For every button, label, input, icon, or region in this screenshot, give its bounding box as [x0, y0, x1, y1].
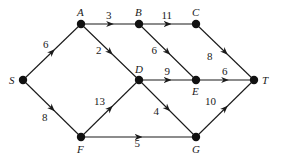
edge-weight-E-T: 6: [222, 65, 228, 77]
edge-F-D: [81, 80, 139, 137]
edge-weight-G-T: 10: [205, 95, 217, 107]
edge-weight-F-G: 5: [135, 137, 141, 149]
node-A: [77, 20, 85, 28]
edge-weight-S-F: 8: [42, 111, 48, 123]
edge-S-A: [23, 24, 81, 80]
edge-weight-A-B: 3: [106, 9, 112, 21]
edge-weight-D-E: 9: [165, 65, 171, 77]
edge-G-T: [196, 80, 254, 137]
node-B: [135, 20, 143, 28]
node-T: [250, 76, 258, 84]
edge-A-D: [81, 24, 139, 80]
edge-weight-S-A: 6: [43, 38, 49, 50]
node-F: [77, 133, 85, 141]
node-label-C: C: [192, 6, 200, 18]
edge-weight-A-D: 2: [96, 44, 102, 56]
node-label-A: A: [76, 6, 84, 18]
node-S: [19, 76, 27, 84]
graph-canvas: 6832116894613510SABCDETFG: [0, 0, 283, 161]
edge-weight-F-D: 13: [94, 95, 106, 107]
node-label-S: S: [9, 74, 15, 86]
edge-weight-B-C: 11: [162, 9, 173, 21]
node-label-E: E: [191, 85, 199, 97]
edge-D-G: [139, 80, 196, 137]
edge-weight-D-G: 4: [154, 105, 160, 117]
node-E: [192, 76, 200, 84]
edge-weight-B-E: 6: [152, 44, 158, 56]
node-label-T: T: [262, 74, 269, 86]
edge-weight-C-T: 8: [207, 50, 213, 62]
node-G: [192, 133, 200, 141]
node-label-G: G: [192, 143, 200, 155]
edge-S-F: [23, 80, 81, 137]
node-label-F: F: [76, 143, 84, 155]
node-label-D: D: [134, 63, 143, 75]
node-D: [135, 76, 143, 84]
node-label-B: B: [135, 6, 142, 18]
node-C: [192, 20, 200, 28]
